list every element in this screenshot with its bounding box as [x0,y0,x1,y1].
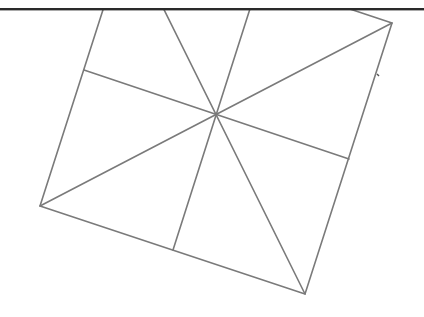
top-bar [0,8,424,10]
midline-2 [84,70,349,159]
square-outline [40,0,392,294]
diagram-canvas [0,0,424,317]
tick-mark [377,74,379,76]
square-diagram [0,0,424,317]
